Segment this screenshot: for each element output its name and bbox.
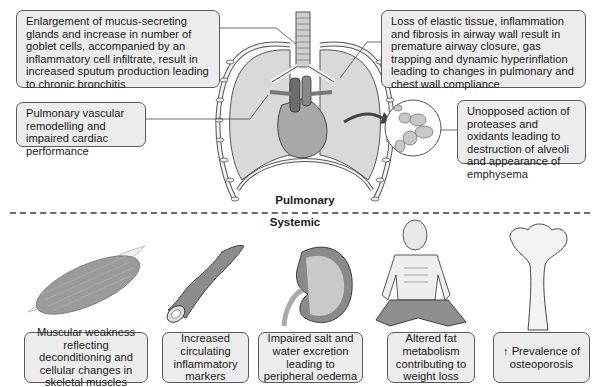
emaciated-man-illustration [376, 220, 466, 326]
callout-emphysema: Unopposed action of proteases and oxidan… [457, 100, 586, 164]
systemic-text: Muscular weakness reflecting decondition… [29, 326, 143, 387]
systemic-text: Impaired salt and water excretion leadin… [263, 332, 358, 382]
section-label-pulmonary: Pulmonary [260, 194, 350, 206]
skeletal-muscle-illustration [28, 244, 147, 326]
callout-mucus-glands: Enlargement of mucus-secreting glands an… [16, 10, 220, 88]
lungs-and-heart-illustration [215, 12, 395, 201]
section-label-systemic: Systemic [250, 216, 340, 228]
systemic-box-muscle: Muscular weakness reflecting decondition… [24, 332, 148, 383]
systemic-text: Increased circulating inflammatory marke… [167, 332, 244, 382]
kidney-illustration [284, 247, 352, 326]
blood-vessel-illustration [164, 245, 244, 325]
systemic-box-inflammatory: Increased circulating inflammatory marke… [162, 332, 249, 383]
section-divider [10, 212, 590, 214]
systemic-box-kidney: Impaired salt and water excretion leadin… [258, 332, 363, 383]
callout-text: Enlargement of mucus-secreting glands an… [26, 15, 209, 90]
callout-elastic-tissue: Loss of elastic tissue, inflammation and… [381, 10, 586, 88]
systemic-text: Altered fat metabolism contributing to w… [392, 332, 470, 382]
callout-pulmonary-vascular: Pulmonary vascular remodelling and impai… [16, 102, 146, 147]
systemic-box-osteoporosis: ↑ Prevalence of osteoporosis [493, 332, 590, 383]
systemic-text: ↑ Prevalence of osteoporosis [498, 345, 585, 370]
femur-bone-illustration [510, 224, 567, 330]
alveoli-magnified-illustration [385, 100, 441, 156]
systemic-box-weight: Altered fat metabolism contributing to w… [387, 332, 475, 383]
callout-text: Loss of elastic tissue, inflammation and… [391, 15, 574, 90]
